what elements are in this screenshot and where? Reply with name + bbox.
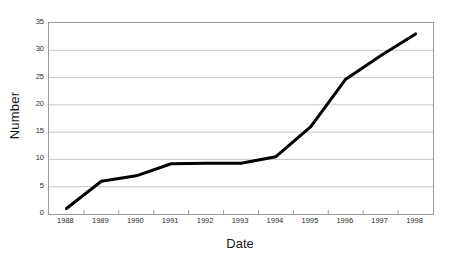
x-axis-title-label: Date	[226, 236, 253, 251]
x-tick-label: 1997	[371, 217, 388, 225]
plot-svg	[49, 23, 433, 214]
x-tick-label: 1996	[336, 217, 353, 225]
y-tick-label: 30	[22, 46, 44, 54]
data-series-line	[66, 34, 415, 209]
plot-area	[48, 22, 434, 215]
x-tick-marks-group	[84, 210, 398, 214]
x-tick-label: 1988	[57, 217, 74, 225]
x-axis-tick-labels: 1988198919901991199219931994199519961997…	[48, 217, 432, 231]
x-tick-label: 1994	[267, 217, 284, 225]
x-axis-title: Date	[48, 236, 432, 251]
y-tick-label: 10	[22, 155, 44, 163]
y-tick-label: 0	[22, 209, 44, 217]
x-tick-label: 1992	[197, 217, 214, 225]
line-chart-figure: Number 05101520253035 198819891990199119…	[0, 0, 454, 265]
x-tick-label: 1995	[301, 217, 318, 225]
x-tick-label: 1998	[406, 217, 423, 225]
y-axis-tick-labels: 05101520253035	[22, 16, 44, 216]
y-tick-label: 25	[22, 73, 44, 81]
y-tick-label: 20	[22, 100, 44, 108]
x-tick-label: 1993	[232, 217, 249, 225]
y-tick-label: 35	[22, 18, 44, 26]
x-tick-label: 1990	[127, 217, 144, 225]
y-tick-label: 5	[22, 182, 44, 190]
y-tick-label: 15	[22, 127, 44, 135]
x-tick-label: 1991	[162, 217, 179, 225]
x-tick-label: 1989	[92, 217, 109, 225]
y-axis-title-label: Number	[8, 91, 23, 138]
gridlines-group	[49, 50, 433, 186]
